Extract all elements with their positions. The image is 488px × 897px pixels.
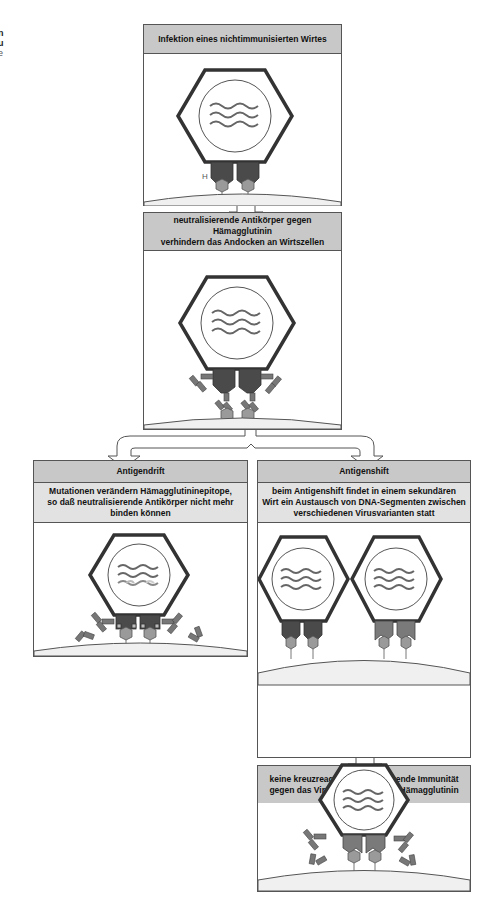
panel-infection: Infektion eines nichtimmunisierten Wirte…	[143, 24, 342, 206]
panel-header: Antigendrift	[34, 461, 247, 483]
description-line: binden können	[110, 508, 170, 519]
host-cell-membrane	[34, 643, 247, 656]
panel-description: Mutationen verändern Hämagglutininepitop…	[34, 483, 247, 523]
edge-text-line: u	[0, 38, 4, 48]
antigen-drift-illustration	[34, 523, 247, 656]
description-line: Mutationen verändern Hämagglutininepitop…	[49, 486, 232, 497]
description-line: so daß neutralisierende Antikörper nicht…	[47, 497, 233, 508]
virus-icon	[178, 70, 292, 162]
description-line: verschiedenen Virusvarianten statt	[293, 508, 434, 519]
host-cell-membrane	[258, 661, 470, 686]
hemagglutinin-icon	[213, 369, 261, 393]
virus-infection-illustration: H	[144, 54, 341, 206]
panel-header: Infektion eines nichtimmunisierten Wirte…	[144, 25, 341, 54]
panel-header: Antigenshift	[258, 461, 470, 483]
receptor-icon	[286, 636, 411, 659]
description-line: Wirt ein Austausch von DNA-Segmenten zwi…	[262, 497, 466, 508]
no-immunity-virus-illustration	[258, 752, 470, 891]
edge-text-line: e	[0, 48, 4, 58]
new-hemagglutinin-icon	[375, 621, 415, 640]
edge-text-fragment: n u e	[0, 28, 4, 58]
panel-header: neutralisierende Antikörper gegen Hämagg…	[144, 213, 341, 251]
panel-title: Antigendrift	[116, 466, 164, 477]
virus-original-icon	[259, 537, 348, 621]
panel-antigenshift: Antigenshift beim Antigenshift findet in…	[257, 460, 471, 758]
panel-title: Infektion eines nichtimmunisierten Wirte…	[158, 34, 327, 45]
description-line: beim Antigenshift findet in einem sekund…	[272, 486, 456, 497]
host-cell-membrane	[144, 194, 341, 206]
panel-antigendrift: Antigendrift Mutationen verändern Hämagg…	[33, 460, 248, 657]
panel-neutralizing: neutralisierende Antikörper gegen Hämagg…	[143, 212, 342, 430]
panel-title-line: neutralisierende Antikörper gegen Hämagg…	[144, 215, 341, 237]
host-cell-membrane	[144, 418, 341, 429]
antibody-neutralization-illustration	[144, 251, 341, 429]
virus-icon	[90, 535, 188, 615]
virus-variant-icon	[352, 537, 441, 621]
hemagglutinin-label: H	[202, 172, 208, 181]
virus-icon	[180, 277, 294, 369]
panel-title-line: verhindern das Andocken an Wirtszellen	[161, 237, 325, 248]
antigen-shift-illustration	[258, 523, 470, 757]
mutated-hemagglutinin-icon	[116, 615, 160, 629]
panel-description: beim Antigenshift findet in einem sekund…	[258, 483, 470, 523]
panel-title: Antigenshift	[339, 466, 389, 477]
edge-text-line: n	[0, 28, 4, 38]
